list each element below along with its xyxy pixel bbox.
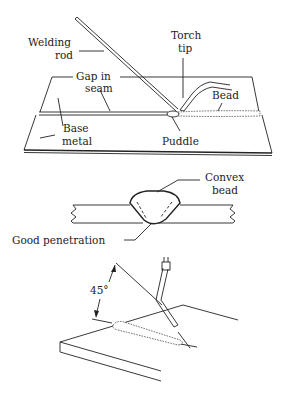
leader-penetration bbox=[124, 224, 151, 240]
label-angle: 45° bbox=[90, 284, 109, 296]
angle-reference-line bbox=[116, 263, 162, 305]
label-convex-2: bead bbox=[212, 184, 238, 196]
convex-bead bbox=[130, 191, 180, 224]
label-good-penetration: Good penetration bbox=[12, 234, 105, 246]
fusion-line-left bbox=[137, 202, 146, 218]
right-break-line bbox=[230, 205, 235, 223]
torch-body-side bbox=[161, 269, 178, 325]
welding-diagram: Welding rod Torch tip Gap in seam Bead B… bbox=[0, 0, 288, 393]
angle-baseline bbox=[92, 319, 112, 323]
label-welding-rod-1: Welding bbox=[28, 36, 71, 48]
leader-base-lower bbox=[40, 135, 55, 138]
left-break-line bbox=[71, 205, 76, 223]
fusion-line-right bbox=[160, 202, 172, 218]
middle-panel: Convex bead Good penetration bbox=[12, 171, 244, 246]
plate-right-far-edge bbox=[252, 77, 259, 112]
label-torch-tip-2: tip bbox=[178, 42, 193, 54]
arrowhead-top-icon bbox=[111, 265, 116, 272]
leader-puddle bbox=[172, 117, 180, 131]
welding-rod-side bbox=[77, 17, 178, 109]
torch-fitting-top bbox=[164, 257, 168, 262]
label-welding-rod-2: rod bbox=[55, 49, 73, 61]
welding-rod bbox=[75, 19, 176, 111]
torch-nozzle-end bbox=[174, 325, 178, 327]
label-torch-tip-1: Torch bbox=[171, 29, 201, 41]
plate-right-near-edge bbox=[262, 115, 272, 153]
label-bead: Bead bbox=[212, 89, 239, 101]
torch-nozzle-end bbox=[180, 110, 184, 111]
welding-rod-end bbox=[75, 17, 77, 19]
plate-left-near-edge bbox=[24, 115, 36, 150]
label-gap-2: seam bbox=[85, 82, 113, 94]
leader-bead bbox=[218, 103, 222, 111]
label-convex-1: Convex bbox=[205, 171, 244, 183]
puddle bbox=[167, 111, 179, 117]
label-gap-1: Gap in bbox=[76, 70, 111, 82]
leader-convex-bead bbox=[157, 180, 200, 192]
top-panel: Welding rod Torch tip Gap in seam Bead B… bbox=[24, 17, 272, 156]
label-base-2: metal bbox=[62, 135, 93, 147]
arrowhead-bottom-icon bbox=[94, 310, 99, 318]
label-base-1: Base bbox=[63, 122, 89, 134]
label-puddle: Puddle bbox=[162, 135, 199, 147]
plate-left-far-edge bbox=[40, 77, 52, 112]
torch-body bbox=[156, 268, 174, 327]
bottom-panel: 45° bbox=[60, 257, 238, 381]
weld-bead bbox=[178, 111, 260, 117]
